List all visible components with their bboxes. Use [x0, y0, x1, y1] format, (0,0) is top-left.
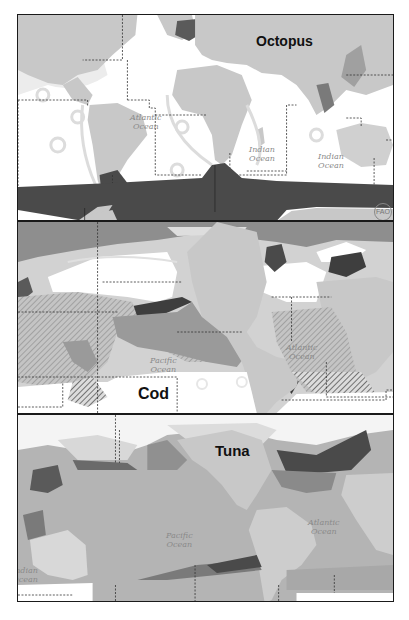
ocean-label-indian-east: Indian Ocean — [318, 152, 344, 170]
ocean-label-line: Atlantic — [308, 518, 340, 527]
ocean-label-line: Pacific — [150, 356, 177, 365]
ocean-label-line: Ocean — [308, 527, 340, 536]
ocean-label-line: Atlantic — [286, 343, 318, 352]
panel-title-tuna: Tuna — [215, 442, 250, 459]
cod-map-panel: Cod Pacific Ocean Atlantic Ocean — [18, 222, 393, 413]
tuna-map — [18, 415, 393, 602]
ocean-label-line: Ocean — [249, 154, 275, 163]
octopus-map-panel: Octopus Atlantic Ocean Indian Ocean Indi… — [18, 15, 393, 221]
ocean-label-pacific: Pacific Ocean — [150, 356, 177, 374]
ocean-label-line: Indian — [18, 566, 38, 575]
ocean-label-indian: Indian Ocean — [18, 566, 38, 584]
ocean-label-indian: Indian Ocean — [249, 145, 275, 163]
ocean-label-atlantic: Atlantic Ocean — [286, 343, 318, 361]
fao-logo-icon: FAO — [374, 203, 392, 221]
ocean-label-atlantic: Atlantic Ocean — [130, 113, 162, 131]
ocean-label-pacific: Pacific Ocean — [166, 531, 193, 549]
ocean-label-line: Ocean — [286, 352, 318, 361]
ocean-label-line: Ocean — [130, 122, 162, 131]
ocean-label-atlantic: Atlantic Ocean — [308, 518, 340, 536]
ocean-label-line: Indian — [318, 152, 344, 161]
tuna-map-panel: Tuna Pacific Ocean Atlantic Ocean Indian… — [18, 415, 393, 602]
figure-frame: Octopus Atlantic Ocean Indian Ocean Indi… — [17, 14, 394, 602]
panel-title-cod: Cod — [138, 385, 169, 403]
ocean-label-line: Ocean — [150, 365, 177, 374]
cod-map — [18, 222, 393, 413]
ocean-label-line: Pacific — [166, 531, 193, 540]
ocean-label-line: Atlantic — [130, 113, 162, 122]
octopus-map — [18, 15, 393, 221]
ocean-label-line: Ocean — [166, 540, 193, 549]
ocean-label-line: Ocean — [318, 161, 344, 170]
ocean-label-line: Indian — [249, 145, 275, 154]
panel-title-octopus: Octopus — [256, 33, 313, 49]
ocean-label-line: Ocean — [18, 575, 38, 584]
